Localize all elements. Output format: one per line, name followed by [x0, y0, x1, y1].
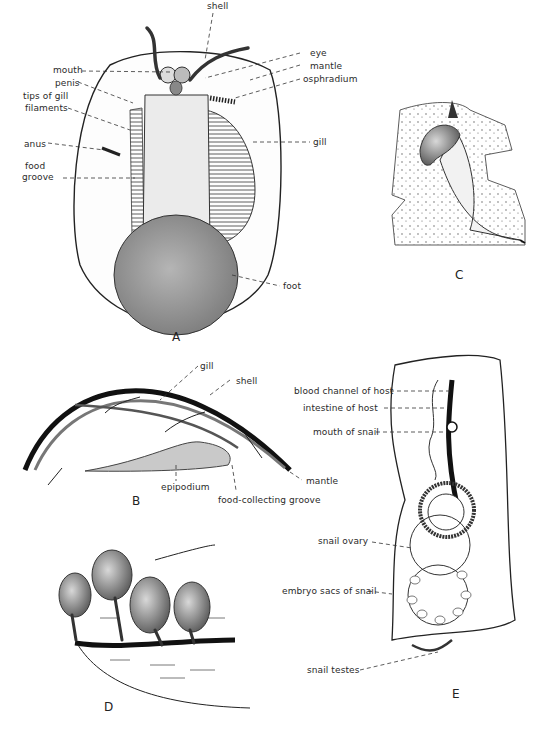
label-mantle-b: mantle: [306, 476, 338, 486]
label-mouth-of-snail: mouth of snail: [313, 427, 379, 437]
label-gill-a: gill: [313, 137, 327, 147]
panel-letter-c: C: [455, 268, 463, 282]
panel-letter-d: D: [104, 700, 113, 714]
label-embryo-sacs: embryo sacs of snail: [282, 586, 377, 596]
label-foot: foot: [283, 281, 301, 291]
label-food-1: food: [25, 161, 45, 171]
panel-letter-e: E: [452, 687, 460, 701]
label-shell-a: shell: [207, 1, 228, 11]
label-intestine: intestine of host: [303, 403, 378, 413]
panel-e-drawing: [360, 355, 515, 670]
panel-d-drawing: [59, 545, 250, 708]
label-anus: anus: [24, 139, 46, 149]
label-snail-testes: snail testes: [307, 665, 359, 675]
label-snail-ovary: snail ovary: [318, 536, 368, 546]
panel-a-drawing: [48, 13, 310, 335]
illustration-canvas: [0, 0, 542, 730]
label-food-2: groove: [22, 172, 54, 182]
label-eye: eye: [310, 48, 327, 58]
label-mouth: mouth: [53, 65, 83, 75]
label-blood-channel: blood channel of host: [294, 386, 393, 396]
label-tips-gill-1: tips of gill: [23, 91, 68, 101]
panel-c-drawing: [392, 100, 525, 245]
label-penis: penis: [55, 78, 80, 88]
panel-b-drawing: [25, 366, 302, 490]
label-osphradium: osphradium: [303, 74, 358, 84]
label-tips-gill-2: filaments: [25, 103, 68, 113]
panel-letter-b: B: [132, 494, 140, 508]
label-gill-b: gill: [200, 361, 214, 371]
label-shell-b: shell: [236, 376, 257, 386]
panel-letter-a: A: [172, 330, 180, 344]
label-epipodium: epipodium: [161, 482, 210, 492]
label-mantle-a: mantle: [310, 61, 342, 71]
label-food-collecting-groove: food-collecting groove: [218, 495, 321, 505]
